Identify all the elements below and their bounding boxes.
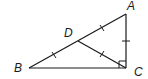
label-D: D xyxy=(64,26,73,40)
triangle-diagram: A B C D xyxy=(0,0,148,79)
label-C: C xyxy=(134,65,143,79)
label-B: B xyxy=(14,61,22,75)
label-A: A xyxy=(126,0,135,13)
